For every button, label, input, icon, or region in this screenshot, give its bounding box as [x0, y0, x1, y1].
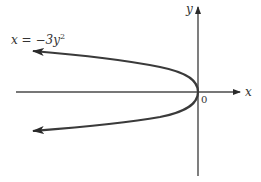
equation-rhs: −3y	[35, 33, 59, 47]
y-axis-label: y	[186, 3, 193, 15]
parabola-lower-branch	[33, 92, 198, 131]
equation-lhs: x	[11, 33, 18, 47]
parabola-upper-branch	[33, 51, 198, 92]
parabola-diagram: x = −3y2 y x 0	[0, 0, 261, 182]
equation-exponent: 2	[60, 32, 65, 41]
x-axis-label: x	[245, 86, 252, 98]
graph-canvas	[0, 0, 261, 182]
origin-label: 0	[201, 95, 207, 105]
equation-label: x = −3y2	[11, 33, 65, 46]
equation-equals: =	[18, 33, 36, 47]
